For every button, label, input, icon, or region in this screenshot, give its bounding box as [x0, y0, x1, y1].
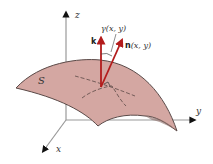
k-label: k — [91, 37, 97, 46]
z-axis-label: z — [74, 10, 80, 20]
angle-pointer — [111, 34, 116, 52]
x-axis-label: x — [56, 144, 61, 154]
angle-arc — [101, 53, 112, 56]
n-label: n(x, y) — [125, 41, 151, 50]
n-label-args: (x, y) — [131, 41, 151, 50]
surface-label: S — [38, 75, 45, 86]
x-axis — [44, 120, 66, 150]
surface-normal-diagram: z y x S k n(x, y) γ(x, y) — [0, 0, 213, 164]
y-axis-label: y — [195, 106, 202, 116]
gamma-label: γ(x, y) — [101, 24, 126, 33]
